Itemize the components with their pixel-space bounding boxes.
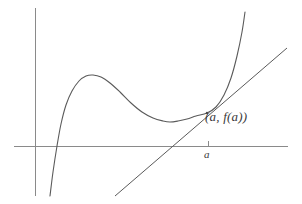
figure-canvas — [0, 0, 302, 204]
tangent-line — [115, 48, 287, 196]
x-tick-label-a: a — [204, 148, 210, 160]
point-label: (a, f(a)) — [205, 109, 247, 125]
tangent-line-figure: (a, f(a)) a — [0, 0, 302, 204]
